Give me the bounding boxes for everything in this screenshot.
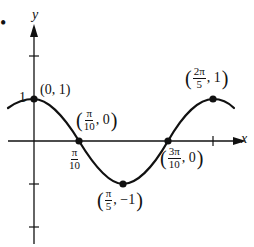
point-pi10-0 (75, 137, 82, 144)
label-point-pi5-neg1: ( π5 , −1 ) (97, 188, 143, 212)
y-axis-arrow-icon (30, 24, 38, 37)
bullet: • (0, 14, 6, 32)
label-point-3pi10-0: ( 3π10 , 0 ) (160, 146, 203, 170)
point-0-1 (30, 95, 37, 102)
point-pi5-neg1 (119, 180, 126, 187)
label-point-pi10-0: ( π10 , 0 ) (76, 108, 117, 132)
x-tick-label-pi10: π10 (69, 147, 80, 171)
label-point-0-1: (0, 1) (40, 83, 70, 97)
label-point-2pi5-1: ( 2π5 , 1 ) (185, 66, 228, 90)
point-3pi10-0 (164, 137, 171, 144)
x-axis-label: x (241, 132, 247, 146)
point-2pi5-1 (209, 95, 216, 102)
y-tick-label-1: 1 (19, 91, 26, 105)
y-axis-label: y (32, 8, 38, 22)
